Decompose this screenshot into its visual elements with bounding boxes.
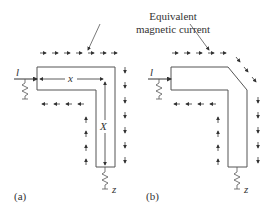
panel-label-a: (a) — [14, 190, 26, 202]
horizontal-dim-label: x — [68, 72, 73, 84]
magnetic-current-diagonal-b — [236, 57, 256, 82]
input-port-label-a: l — [16, 66, 19, 78]
source-resistor-b — [156, 79, 162, 99]
input-port-label-b: l — [150, 66, 153, 78]
output-port-label-a: z — [112, 183, 116, 195]
load-resistor-b — [234, 167, 240, 189]
annotation-line-1: Equivalent — [118, 10, 228, 23]
annotation-title: Equivalent magnetic current — [118, 10, 228, 36]
panel-a-diagram — [14, 24, 125, 189]
panel-b-diagram — [148, 24, 258, 189]
panel-label-b: (b) — [146, 190, 159, 202]
chamfered-bend-strip-b — [171, 67, 247, 167]
callout-pointer-a — [88, 24, 100, 50]
l-bend-strip-a — [37, 67, 115, 167]
vertical-dim-label: X — [100, 120, 107, 132]
annotation-line-2: magnetic current — [118, 23, 228, 36]
load-resistor-a — [102, 167, 108, 189]
output-port-label-b: z — [244, 183, 248, 195]
source-resistor-a — [22, 79, 28, 99]
